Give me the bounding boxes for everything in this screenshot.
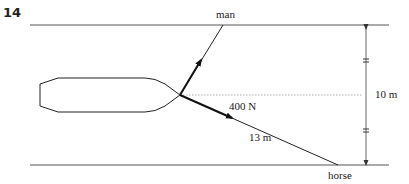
horse-force-arrow bbox=[180, 95, 232, 118]
man-label: man bbox=[216, 8, 235, 20]
boat bbox=[40, 78, 180, 112]
rope-length-label: 13 m bbox=[249, 131, 272, 143]
force-label: 400 N bbox=[229, 100, 256, 112]
horse-label: horse bbox=[328, 169, 352, 181]
man-force-arrow bbox=[180, 60, 201, 95]
width-label: 10 m bbox=[375, 88, 398, 100]
canal-diagram: man horse 400 N 13 m 10 m bbox=[0, 0, 409, 184]
